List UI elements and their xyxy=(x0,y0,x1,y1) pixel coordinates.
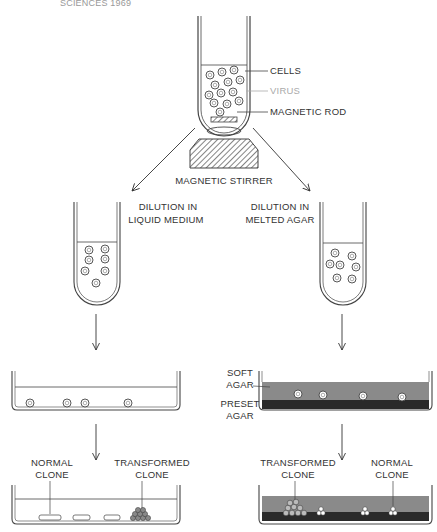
label-soft-agar-2: AGAR xyxy=(226,379,254,390)
label-magnetic-stirrer: MAGNETIC STIRRER xyxy=(175,175,273,186)
soft-agar-dish-clones xyxy=(259,481,432,524)
liquid-dish-clones xyxy=(12,481,180,524)
liquid-medium-tube xyxy=(74,202,120,305)
liquid-dish xyxy=(12,371,180,410)
label-preset-agar-1: PRESET xyxy=(220,398,259,409)
virus-transformation-diagram: SCIENCES 1969 CELLS VIRUS MAGNETIC ROD M… xyxy=(0,0,437,532)
top-culture-tube xyxy=(198,16,250,136)
label-normal-clone-left-2: CLONE xyxy=(35,469,69,480)
label-dilution-agar-2: MELTED AGAR xyxy=(245,214,314,225)
page-header: SCIENCES 1969 xyxy=(60,0,131,8)
label-virus: VIRUS xyxy=(270,85,300,96)
label-transformed-clone-left-1: TRANSFORMED xyxy=(114,457,190,468)
cells-cluster xyxy=(205,66,244,116)
rotation-arrow-icon xyxy=(207,127,241,135)
label-normal-clone-right-2: CLONE xyxy=(375,469,409,480)
soft-agar-dish xyxy=(259,371,432,410)
label-dilution-liquid-2: LIQUID MEDIUM xyxy=(128,214,203,225)
label-magnetic-rod: MAGNETIC ROD xyxy=(270,106,346,117)
label-dilution-liquid-1: DILUTION IN xyxy=(139,201,198,212)
label-normal-clone-right-1: NORMAL xyxy=(371,457,413,468)
label-preset-agar-2: AGAR xyxy=(226,410,254,421)
magnetic-stirrer xyxy=(190,139,258,168)
label-transformed-clone-left-2: CLONE xyxy=(135,469,169,480)
label-normal-clone-left-1: NORMAL xyxy=(31,457,73,468)
label-transformed-clone-right-1: TRANSFORMED xyxy=(260,457,336,468)
label-cells: CELLS xyxy=(270,65,301,76)
melted-agar-tube xyxy=(320,202,366,305)
label-transformed-clone-right-2: CLONE xyxy=(281,469,315,480)
magnetic-rod xyxy=(211,117,237,122)
label-soft-agar-1: SOFT xyxy=(227,367,253,378)
label-dilution-agar-1: DILUTION IN xyxy=(251,201,310,212)
